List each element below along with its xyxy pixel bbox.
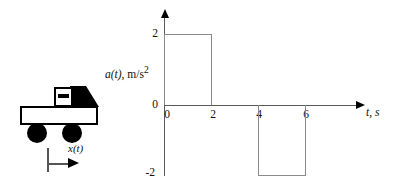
pulse-negative-rising-edge	[305, 105, 306, 176]
pulse-negative-plateau	[258, 175, 306, 176]
pulse-positive-rising-edge	[164, 34, 165, 105]
cart-window-icon	[58, 94, 69, 98]
y-axis-label-units: m/s	[127, 68, 144, 80]
x-axis-arrowhead-icon	[356, 101, 365, 109]
pulse-negative-falling-edge	[258, 105, 259, 176]
x-axis-label: t, s	[366, 106, 379, 118]
displacement-origin-line	[47, 148, 49, 172]
y-tick-label-0: 0	[138, 98, 158, 110]
figure-container: x(t) a(t), m/s2 t, s 2 0 -2 0 2 4 6	[0, 0, 395, 187]
cart-body-icon	[20, 106, 98, 125]
displacement-arrowhead-icon	[68, 158, 79, 168]
acceleration-time-plot: a(t), m/s2 t, s 2 0 -2 0 2 4 6	[100, 0, 395, 187]
x-tick-label-2: 2	[206, 108, 220, 120]
cart-wheel-rear-icon	[62, 123, 82, 143]
displacement-arrow-shaft	[47, 163, 70, 165]
y-tick-label-2: 2	[138, 27, 158, 39]
y-axis-label-exponent: 2	[144, 64, 149, 75]
y-tick-label-neg2: -2	[135, 166, 155, 178]
y-axis-arrowhead-icon	[161, 9, 169, 18]
y-axis-label: a(t), m/s2	[105, 64, 149, 80]
cart-cab-wedge-icon	[70, 86, 100, 108]
x-tick-label-0: 0	[160, 108, 174, 120]
displacement-label: x(t)	[68, 142, 83, 154]
pulse-positive-falling-edge	[211, 34, 212, 105]
pulse-positive-plateau	[164, 34, 212, 35]
x-axis-line	[164, 105, 358, 106]
cart-wheel-front-icon	[27, 123, 47, 143]
y-axis-label-variable: a(t)	[105, 68, 122, 80]
